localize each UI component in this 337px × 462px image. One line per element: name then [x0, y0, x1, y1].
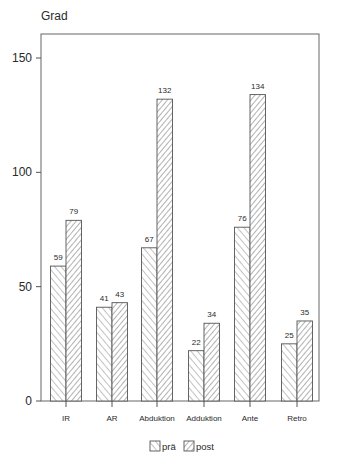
bar-value-label: 134	[251, 82, 265, 91]
bar-prä-ar: 41	[97, 294, 113, 401]
legend-label: post	[196, 441, 214, 452]
x-category-label: Adduktion	[186, 414, 222, 423]
bar-prä-adduktion: 22	[189, 338, 205, 401]
bar-prä-retro: 25	[282, 331, 298, 401]
bar-value-label: 22	[192, 338, 201, 347]
bar-post-abduktion: 132	[157, 86, 173, 401]
bar-post-ir: 79	[66, 207, 82, 401]
x-axis: IRARAbduktionAdduktionAnteRetro	[62, 401, 307, 423]
bar-value-label: 41	[100, 294, 109, 303]
x-category-label: AR	[106, 414, 117, 423]
bar-value-label: 132	[158, 86, 172, 95]
bar-value-label: 79	[69, 207, 78, 216]
bars: 59794143671322234761342535	[51, 82, 313, 401]
bar-value-label: 59	[54, 253, 63, 262]
bar-chart: Grad 050100150 IRARAbduktionAdduktionAnt…	[0, 0, 337, 462]
plot-frame	[41, 34, 319, 401]
bar-post-retro: 35	[297, 308, 313, 401]
y-axis: 050100150	[12, 51, 41, 408]
legend-item-prä: prä	[150, 441, 176, 452]
bar-prä-ante: 76	[235, 214, 251, 401]
bar-post-ante: 134	[250, 82, 266, 401]
bar-prä-abduktion: 67	[142, 235, 158, 401]
x-category-label: IR	[62, 414, 70, 423]
bar-prä-ir: 59	[51, 253, 67, 401]
legend-swatch	[150, 441, 160, 451]
legend: präpost	[150, 441, 214, 452]
y-tick-label: 100	[12, 165, 32, 179]
legend-swatch	[184, 441, 194, 451]
bar-value-label: 25	[285, 331, 294, 340]
y-tick-label: 0	[25, 394, 32, 408]
bar-post-adduktion: 34	[204, 310, 220, 401]
legend-label: prä	[162, 441, 176, 452]
x-category-label: Abduktion	[139, 414, 175, 423]
bar-post-ar: 43	[112, 290, 128, 401]
x-category-label: Ante	[242, 414, 259, 423]
legend-item-post: post	[184, 441, 214, 452]
y-tick-label: 50	[19, 280, 33, 294]
bar-value-label: 43	[115, 290, 124, 299]
y-tick-label: 150	[12, 51, 32, 65]
y-axis-label: Grad	[41, 9, 68, 23]
bar-value-label: 35	[300, 308, 309, 317]
bar-value-label: 76	[238, 214, 247, 223]
bar-value-label: 67	[145, 235, 154, 244]
x-category-label: Retro	[287, 414, 307, 423]
bar-value-label: 34	[207, 310, 216, 319]
